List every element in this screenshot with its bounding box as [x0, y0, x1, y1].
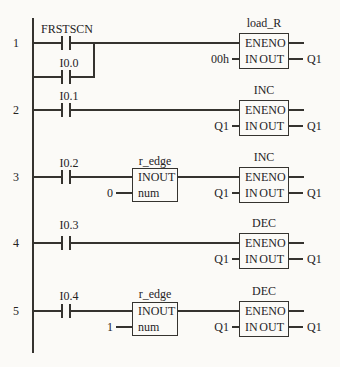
contact-label: I0.2	[60, 157, 79, 170]
pin-out: OUT	[259, 120, 284, 132]
wire	[116, 326, 132, 328]
wire	[71, 76, 94, 78]
wire	[232, 192, 239, 194]
pin-in: IN	[245, 187, 258, 199]
pin-in: IN	[245, 53, 258, 65]
block-title: r_edge	[139, 155, 172, 168]
no-contact-frstscn	[61, 36, 71, 50]
pin-in: IN	[245, 120, 258, 132]
block-input-value: 0	[107, 187, 113, 200]
pin-en: EN	[245, 237, 261, 249]
contact-label: FRSTSCN	[41, 23, 93, 36]
wire	[71, 42, 239, 44]
rung-number: 1	[13, 37, 19, 50]
pin-en: EN	[245, 104, 261, 116]
rung-number: 2	[13, 104, 19, 117]
no-contact-i0-4	[61, 304, 71, 318]
eno-stub	[289, 42, 304, 44]
wire	[32, 76, 61, 78]
rung-number: 3	[13, 171, 19, 184]
eno-stub	[289, 242, 304, 244]
pin-num: num	[138, 321, 159, 333]
wire	[71, 310, 133, 312]
wire	[289, 326, 303, 328]
pin-out: OUT	[151, 171, 176, 183]
eno-stub	[289, 176, 304, 178]
wire	[289, 125, 303, 127]
pin-out: OUT	[259, 253, 284, 265]
pin-eno: ENO	[261, 104, 286, 116]
wire	[32, 242, 61, 244]
block-input-value: Q1	[214, 120, 229, 133]
no-contact-i0-3	[61, 236, 71, 250]
block-title: load_R	[247, 17, 282, 30]
wire	[232, 125, 239, 127]
pin-out: OUT	[259, 187, 284, 199]
pin-out: OUT	[259, 321, 284, 333]
function-block-r-edge: IN OUT num	[132, 168, 178, 202]
pin-en: EN	[245, 171, 261, 183]
no-contact-i0-0	[61, 70, 71, 84]
pin-num: num	[138, 187, 159, 199]
block-input-value: Q1	[214, 187, 229, 200]
pin-en: EN	[245, 305, 261, 317]
wire	[32, 42, 61, 44]
no-contact-i0-2	[61, 170, 71, 184]
no-contact-i0-1	[61, 103, 71, 117]
function-block-dec: EN ENO IN OUT	[239, 233, 289, 269]
block-input-value: Q1	[214, 321, 229, 334]
block-title: r_edge	[139, 288, 172, 301]
wire	[232, 326, 239, 328]
pin-out: OUT	[259, 53, 284, 65]
pin-in: IN	[245, 253, 258, 265]
contact-label: I0.4	[60, 290, 79, 303]
pin-eno: ENO	[261, 37, 286, 49]
wire	[289, 192, 303, 194]
rung-number: 4	[13, 237, 19, 250]
contact-label: I0.3	[60, 219, 79, 232]
wire	[178, 310, 239, 312]
wire	[289, 258, 303, 260]
rung-number: 5	[13, 305, 19, 318]
pin-in: IN	[138, 171, 151, 183]
pin-en: EN	[245, 37, 261, 49]
block-output-value: Q1	[307, 120, 322, 133]
wire	[116, 192, 132, 194]
block-input-value: 00h	[211, 53, 229, 66]
contact-label: I0.0	[60, 57, 79, 70]
wire	[232, 258, 239, 260]
function-block-dec: EN ENO IN OUT	[239, 301, 289, 337]
branch-wire	[93, 42, 95, 78]
block-title: DEC	[252, 217, 276, 230]
wire	[71, 176, 133, 178]
wire	[32, 310, 61, 312]
block-output-value: Q1	[307, 253, 322, 266]
block-input-value: 1	[107, 321, 113, 334]
pin-in: IN	[245, 321, 258, 333]
wire	[32, 109, 61, 111]
block-title: INC	[254, 151, 275, 164]
wire	[232, 58, 239, 60]
pin-out: OUT	[151, 305, 176, 317]
eno-stub	[289, 109, 304, 111]
pin-eno: ENO	[261, 305, 286, 317]
function-block-r-edge: IN OUT num	[132, 302, 178, 336]
block-title: DEC	[252, 285, 276, 298]
contact-label: I0.1	[60, 90, 79, 103]
eno-stub	[289, 310, 304, 312]
block-output-value: Q1	[307, 53, 322, 66]
power-rail	[32, 18, 34, 353]
wire	[71, 109, 239, 111]
block-input-value: Q1	[214, 253, 229, 266]
ladder-diagram: 1 FRSTSCN I0.0 load_R EN ENO IN OUT 00h …	[0, 0, 340, 367]
wire	[178, 176, 239, 178]
pin-eno: ENO	[261, 171, 286, 183]
block-output-value: Q1	[307, 187, 322, 200]
wire	[289, 58, 303, 60]
wire	[71, 242, 239, 244]
function-block-inc: EN ENO IN OUT	[239, 167, 289, 203]
pin-in: IN	[138, 305, 151, 317]
wire	[32, 176, 61, 178]
function-block-load-r: EN ENO IN OUT	[239, 33, 289, 69]
block-title: INC	[254, 84, 275, 97]
